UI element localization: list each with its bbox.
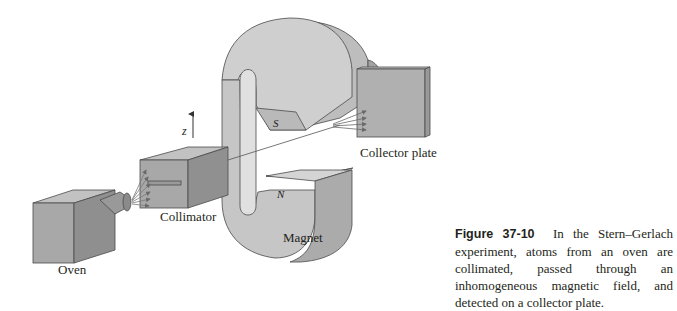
collector-plate [357, 67, 430, 137]
svg-text:N: N [276, 188, 285, 200]
z-axis-label: z [182, 124, 187, 139]
figure-caption: Figure 37-10 In the Stern–Gerlach experi… [455, 225, 673, 311]
figure-number: Figure 37-10 [455, 227, 535, 241]
magnet: S N [222, 18, 384, 262]
collector-plate-label: Collector plate [360, 145, 437, 161]
collimator [140, 147, 228, 208]
oven-label: Oven [58, 262, 86, 278]
magnet-label: Magnet [283, 230, 323, 246]
collimator-label: Collimator [160, 209, 216, 225]
svg-text:S: S [273, 117, 279, 129]
oven [33, 190, 131, 263]
